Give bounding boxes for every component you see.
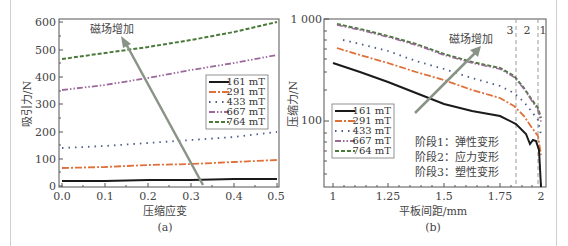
stage-note-3: 阶段3：塑性变形 bbox=[415, 165, 499, 179]
x-tick-a-2: 0.2 bbox=[139, 190, 157, 203]
x-tick-b-4: 2 bbox=[538, 190, 545, 203]
series-a-433 bbox=[62, 132, 277, 148]
stage-note-1: 阶段1：弹性变形 bbox=[415, 135, 499, 149]
annotation-a: 磁场增加 bbox=[90, 22, 134, 36]
y-axis-title-b: 压缩力/N bbox=[287, 80, 300, 127]
figure: 0 100 200 300 400 500 600 0.0 0.1 0.2 0.… bbox=[0, 0, 568, 246]
x-ticks-a bbox=[62, 183, 277, 187]
legend-a-764: 764 mT bbox=[227, 116, 266, 127]
field-increase-arrow-a bbox=[121, 36, 203, 185]
caption-b: (b) bbox=[425, 221, 441, 234]
series-a-161 bbox=[62, 179, 277, 181]
y-tick-b-100: 100 bbox=[301, 114, 322, 127]
y-tick-a-6: 600 bbox=[35, 16, 56, 29]
x-tick-a-3: 0.3 bbox=[182, 190, 200, 203]
caption-a: (a) bbox=[157, 221, 172, 234]
x-axis-title-b: 平板间距/mm bbox=[399, 204, 468, 218]
y-ticks-a bbox=[59, 22, 63, 186]
stage-label-1: 1 bbox=[540, 24, 547, 37]
y-tick-a-5: 500 bbox=[35, 44, 56, 57]
x-tick-b-2: 1.5 bbox=[435, 190, 453, 203]
x-tick-b-3: 1.75 bbox=[488, 190, 513, 203]
stage-note-2: 阶段2：应力变形 bbox=[415, 150, 499, 164]
chart-a: 0 100 200 300 400 500 600 0.0 0.1 0.2 0.… bbox=[20, 16, 285, 234]
x-tick-a-5: 0.5 bbox=[267, 190, 285, 203]
legend-b-764: 764 mT bbox=[353, 145, 392, 156]
y-axis-title-a: 吸引力/N bbox=[20, 80, 34, 127]
stage-label-2: 2 bbox=[524, 24, 531, 37]
y-tick-a-2: 200 bbox=[35, 126, 56, 139]
x-tick-a-1: 0.1 bbox=[96, 190, 114, 203]
y-tick-a-1: 100 bbox=[35, 153, 56, 166]
stage-label-3: 3 bbox=[507, 24, 514, 37]
chart-b: 100 1 000 1 1.25 1.5 1.75 2 压缩力/N 平板间距/m… bbox=[287, 13, 547, 234]
legend-a: 161 mT 291 mT 433 mT 667 mT 764 mT bbox=[206, 75, 268, 129]
x-tick-b-1: 1.25 bbox=[376, 190, 401, 203]
y-tick-a-3: 300 bbox=[35, 98, 56, 111]
x-tick-a-4: 0.4 bbox=[225, 190, 243, 203]
x-tick-b-0: 1 bbox=[330, 190, 337, 203]
y-tick-b-1000: 1 000 bbox=[291, 13, 323, 26]
legend-b: 161 mT 291 mT 433 mT 667 mT 764 mT bbox=[332, 104, 394, 158]
x-ticks-b bbox=[333, 183, 541, 187]
x-tick-a-0: 0.0 bbox=[53, 190, 71, 203]
y-tick-a-4: 400 bbox=[35, 71, 56, 84]
x-axis-title-a: 压缩应变 bbox=[143, 204, 187, 218]
y-ticks-b bbox=[324, 19, 329, 174]
annotation-b: 磁场增加 bbox=[449, 32, 493, 46]
series-a-291 bbox=[62, 160, 277, 168]
